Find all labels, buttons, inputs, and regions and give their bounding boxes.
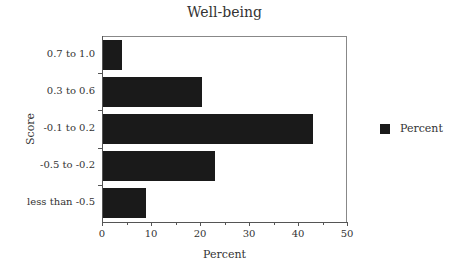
y-axis-label: Score <box>24 113 37 145</box>
bar <box>103 40 122 70</box>
x-minor-tick <box>176 222 177 225</box>
legend: Percent <box>380 122 443 135</box>
y-tick-label: 0.3 to 0.6 <box>47 85 95 96</box>
bar <box>103 114 313 144</box>
bar <box>103 188 146 218</box>
y-tick-label: 0.7 to 1.0 <box>47 48 95 59</box>
x-tick-label: 20 <box>190 228 210 239</box>
y-tick <box>98 185 102 186</box>
x-minor-tick <box>127 222 128 225</box>
y-tick <box>98 73 102 74</box>
bar <box>103 77 202 107</box>
x-tick-label: 50 <box>337 228 357 239</box>
x-tick <box>298 222 299 226</box>
x-tick <box>347 222 348 226</box>
bar <box>103 151 215 181</box>
y-tick-label: -0.5 to -0.2 <box>40 159 95 170</box>
x-minor-tick <box>274 222 275 225</box>
x-tick <box>200 222 201 226</box>
chart-title: Well-being <box>102 4 347 20</box>
legend-swatch-icon <box>380 124 390 134</box>
x-tick <box>102 222 103 226</box>
y-tick <box>98 148 102 149</box>
x-tick-label: 30 <box>239 228 259 239</box>
legend-label: Percent <box>400 122 443 135</box>
x-tick <box>249 222 250 226</box>
x-axis-label: Percent <box>102 248 347 261</box>
y-tick-label: less than -0.5 <box>27 196 95 207</box>
x-tick-label: 0 <box>92 228 112 239</box>
x-minor-tick <box>323 222 324 225</box>
x-tick <box>151 222 152 226</box>
x-tick-label: 10 <box>141 228 161 239</box>
x-minor-tick <box>225 222 226 225</box>
x-tick-label: 40 <box>288 228 308 239</box>
y-tick <box>98 110 102 111</box>
y-tick-label: -0.1 to 0.2 <box>43 122 95 133</box>
